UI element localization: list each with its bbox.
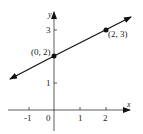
- point-label-2-3: (2, 3): [108, 29, 128, 39]
- point-label-0-2: (0, 2): [31, 47, 51, 57]
- tick-label-x-2: 2: [103, 113, 108, 123]
- chart-canvas: -1 0 1 2 1 3 x y (0, 2) (2, 3): [0, 0, 143, 134]
- point-0-2: [52, 54, 57, 59]
- tick-label-x-neg1: -1: [24, 113, 32, 123]
- tick-label-x-1: 1: [78, 113, 83, 123]
- tick-label-x-0: 0: [46, 113, 51, 123]
- tick-label-y-1: 1: [46, 78, 51, 88]
- x-axis-label: x: [126, 100, 131, 109]
- x-ticks: [29, 107, 106, 110]
- data-line-extension: [10, 56, 54, 79]
- y-axis-label: y: [47, 10, 52, 19]
- tick-label-y-3: 3: [46, 25, 51, 35]
